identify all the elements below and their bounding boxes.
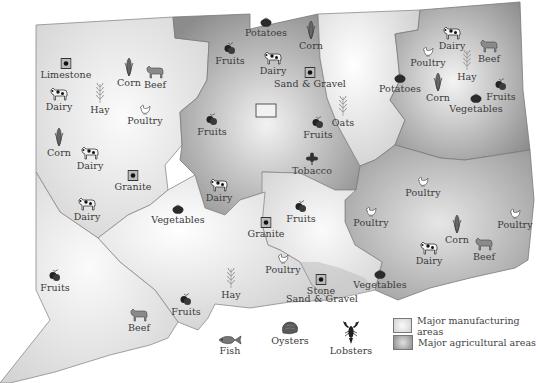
fruits-icon <box>179 292 193 306</box>
resources-label: Granite <box>247 229 284 239</box>
tobacco-leaf-icon <box>306 152 318 165</box>
tomato-icon <box>172 204 184 214</box>
resources-label: Fruits <box>171 307 201 317</box>
agricultural-swatch-icon <box>393 335 413 350</box>
resources-label: Beef <box>473 252 495 262</box>
resources-label: Fruits <box>40 283 70 293</box>
resources-label: Fruits <box>486 92 516 102</box>
tomato-icon <box>394 73 406 83</box>
resources-label: Corn <box>299 41 323 51</box>
resources-label: Sand & Gravel <box>286 294 358 304</box>
resources-label: Oats <box>332 118 355 128</box>
corn-icon <box>452 214 462 234</box>
legend-label: Major agricultural areas <box>418 337 536 348</box>
tomato-icon <box>260 17 272 27</box>
resources-label: Fruits <box>215 56 245 66</box>
resources-label: Dairy <box>206 193 233 203</box>
cow-dairy-icon <box>442 26 462 40</box>
resources-label: Tobacco <box>292 166 332 176</box>
corn-icon <box>433 72 443 92</box>
marine-label: Fish <box>219 346 240 356</box>
cow-beef-icon <box>479 39 499 53</box>
resources-label: Hay <box>90 105 110 115</box>
resources-label: Poultry <box>265 265 300 275</box>
wheat-icon <box>462 49 472 71</box>
chicken-icon <box>417 176 429 187</box>
mine-square-icon <box>305 67 316 78</box>
corn-icon <box>124 57 134 77</box>
resources-label: Fruits <box>286 214 316 224</box>
lobster-icon <box>342 319 360 345</box>
resources-label: Beef <box>478 54 500 64</box>
fruits-icon <box>205 112 219 126</box>
resources-label: Poultry <box>353 218 388 228</box>
cow-dairy-icon <box>49 87 69 101</box>
resources-label: Beef <box>144 80 166 90</box>
mine-square-icon <box>128 170 139 181</box>
resources-label: Hay <box>457 72 477 82</box>
cow-beef-icon <box>145 65 165 79</box>
resources-label: Potatoes <box>379 84 421 94</box>
mine-square-icon <box>316 274 327 285</box>
wheat-icon <box>338 95 348 117</box>
legend: Major manufacturing areas Major agricult… <box>393 317 541 351</box>
corn-icon <box>306 20 316 40</box>
cow-beef-icon <box>474 237 494 251</box>
fruits-icon <box>294 199 308 213</box>
chicken-icon <box>509 208 521 219</box>
manufacturing-swatch-icon <box>393 318 412 333</box>
legend-item-manufacturing: Major manufacturing areas <box>393 317 541 334</box>
resources-label: Limestone <box>40 70 91 80</box>
fruits-icon <box>311 115 325 129</box>
legend-item-agricultural: Major agricultural areas <box>393 334 541 351</box>
mine-square-icon <box>61 58 72 69</box>
resources-label: Poultry <box>127 116 162 126</box>
chicken-icon <box>365 206 377 217</box>
resources-label: Corn <box>47 148 71 158</box>
cow-dairy-icon <box>80 146 100 160</box>
chicken-icon <box>139 104 151 115</box>
chicken-icon <box>422 46 434 57</box>
marine-label: Lobsters <box>330 346 373 356</box>
mine-square-icon <box>261 217 272 228</box>
resources-label: Corn <box>426 93 450 103</box>
resources-label: Dairy <box>77 161 104 171</box>
resources-label: Dairy <box>46 102 73 112</box>
legend-label: Major manufacturing areas <box>417 315 541 337</box>
resources-label: Poultry <box>410 58 445 68</box>
chicken-icon <box>277 253 289 264</box>
cow-dairy-icon <box>263 51 283 65</box>
fruits-icon <box>48 268 62 282</box>
resources-label: Beef <box>128 323 150 333</box>
fruits-icon <box>494 77 508 91</box>
tomato-icon <box>470 93 482 103</box>
resources-label: Poultry <box>497 220 532 230</box>
resources-label: Vegetables <box>449 104 502 114</box>
oyster-icon <box>281 321 299 335</box>
tomato-icon <box>374 269 386 279</box>
resources-label: Dairy <box>74 212 101 222</box>
resources-label: Dairy <box>416 256 443 266</box>
marine-label: Oysters <box>271 336 309 346</box>
resources-label: Fruits <box>197 127 227 137</box>
resources-label: Dairy <box>260 66 287 76</box>
resources-label: Corn <box>445 235 469 245</box>
resources-label: Fruits <box>303 130 333 140</box>
resources-label: Sand & Gravel <box>274 79 346 89</box>
resources-label: Vegetables <box>353 280 406 290</box>
resources-label: Corn <box>117 78 141 88</box>
fruits-icon <box>223 41 237 55</box>
resources-label: Granite <box>114 182 151 192</box>
cow-dairy-icon <box>77 197 97 211</box>
corn-icon <box>54 127 64 147</box>
cow-dairy-icon <box>209 178 229 192</box>
fish-icon <box>218 335 242 345</box>
cow-beef-icon <box>129 308 149 322</box>
resources-label: Hay <box>221 290 241 300</box>
resources-label: Poultry <box>405 188 440 198</box>
wheat-icon <box>95 82 105 104</box>
wheat-icon <box>226 267 236 289</box>
city-rectangle-icon <box>256 104 276 117</box>
resources-label: Vegetables <box>151 215 204 225</box>
cow-dairy-icon <box>419 241 439 255</box>
